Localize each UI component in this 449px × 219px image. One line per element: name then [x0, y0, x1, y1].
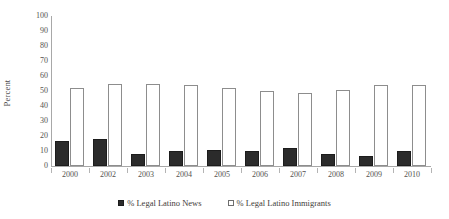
x-tick-mark	[127, 168, 128, 173]
x-axis-line	[51, 166, 431, 167]
x-tick-mark	[51, 168, 52, 173]
y-tick-label: 60	[2, 72, 48, 80]
x-tick-mark	[203, 168, 204, 173]
y-tick-label: 10	[2, 147, 48, 155]
y-tick-label: 30	[2, 117, 48, 125]
bar-legal-latino-news	[359, 156, 373, 167]
x-tick-label: 2010	[393, 170, 431, 179]
bar-legal-latino-immigrants	[70, 88, 84, 166]
x-tick-label: 2004	[165, 170, 203, 179]
legend-swatch-filled-icon	[118, 200, 124, 206]
bar-chart: Percent 1009080706050403020100 200020022…	[0, 0, 449, 219]
bar-legal-latino-immigrants	[374, 85, 388, 166]
x-tick-mark	[355, 168, 356, 173]
y-tick-label: 40	[2, 102, 48, 110]
bar-legal-latino-news	[283, 148, 297, 166]
bar-legal-latino-immigrants	[146, 84, 160, 167]
legend-item-label: % Legal Latino Immigrants	[237, 198, 331, 208]
x-tick-label: 2003	[127, 170, 165, 179]
x-tick-label: 2005	[203, 170, 241, 179]
bar-legal-latino-news	[245, 151, 259, 166]
x-tick-label: 2000	[51, 170, 89, 179]
legend-item-label: % Legal Latino News	[127, 198, 201, 208]
bar-legal-latino-news	[131, 154, 145, 166]
bars-layer	[51, 16, 431, 166]
x-tick-label: 2009	[355, 170, 393, 179]
bar-legal-latino-immigrants	[222, 88, 236, 166]
bar-group	[203, 16, 241, 166]
bar-legal-latino-news	[321, 154, 335, 166]
y-axis-tick-labels: 1009080706050403020100	[0, 0, 48, 219]
bar-group	[127, 16, 165, 166]
y-tick-label: 80	[2, 42, 48, 50]
bar-legal-latino-immigrants	[336, 90, 350, 167]
bar-legal-latino-immigrants	[412, 85, 426, 166]
x-axis-tick-labels: 2000200220032004200520062007200820092010	[51, 168, 431, 184]
x-tick-mark	[241, 168, 242, 173]
bar-group	[279, 16, 317, 166]
legend-item[interactable]: % Legal Latino News	[118, 198, 201, 208]
bar-group	[89, 16, 127, 166]
x-tick-label: 2007	[279, 170, 317, 179]
x-tick-label: 2006	[241, 170, 279, 179]
x-tick-mark	[89, 168, 90, 173]
x-tick-mark	[431, 168, 432, 173]
bar-group	[317, 16, 355, 166]
bar-group	[241, 16, 279, 166]
y-tick-label: 50	[2, 87, 48, 95]
chart-legend: % Legal Latino News% Legal Latino Immigr…	[0, 198, 449, 208]
bar-legal-latino-immigrants	[260, 91, 274, 166]
y-tick-label: 70	[2, 57, 48, 65]
x-tick-label: 2008	[317, 170, 355, 179]
bar-legal-latino-news	[169, 151, 183, 166]
x-tick-label: 2002	[89, 170, 127, 179]
y-tick-label: 90	[2, 27, 48, 35]
x-tick-mark	[317, 168, 318, 173]
bar-legal-latino-news	[55, 141, 69, 167]
bar-legal-latino-news	[397, 151, 411, 166]
bar-group	[51, 16, 89, 166]
x-tick-mark	[279, 168, 280, 173]
y-tick-label: 20	[2, 132, 48, 140]
bar-legal-latino-immigrants	[298, 93, 312, 167]
bar-legal-latino-news	[207, 150, 221, 167]
bar-legal-latino-immigrants	[184, 85, 198, 166]
x-tick-mark	[393, 168, 394, 173]
bar-legal-latino-immigrants	[108, 84, 122, 167]
y-tick-label: 100	[2, 12, 48, 20]
bar-group	[355, 16, 393, 166]
legend-item[interactable]: % Legal Latino Immigrants	[228, 198, 331, 208]
bar-group	[393, 16, 431, 166]
y-tick-label: 0	[2, 162, 48, 170]
x-tick-mark	[165, 168, 166, 173]
bar-legal-latino-news	[93, 139, 107, 166]
bar-group	[165, 16, 203, 166]
legend-swatch-open-icon	[228, 200, 234, 206]
